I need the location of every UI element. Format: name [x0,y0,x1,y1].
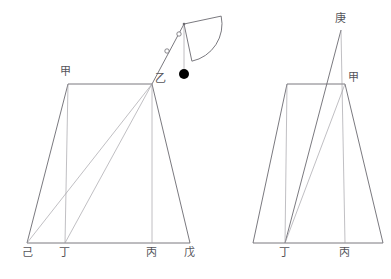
label-left-wu: 戊 [184,247,195,258]
plumb-bob-icon [179,69,189,79]
label-left-yi: 乙 [155,73,166,84]
label-right-ding: 丁 [279,247,290,258]
diagram-canvas [0,0,391,279]
edge-right-jia-wu [345,84,383,243]
edge-vertical-topleft-ding [285,84,287,243]
edge-diagonal-yi-ji [27,84,152,243]
edge-left-topleft-ji [253,84,287,243]
quadrant-sector [184,16,222,61]
right-figure [253,30,383,243]
edge-apex-geng-ding [285,30,341,243]
label-right-geng: 庚 [335,13,346,24]
pivot-point-icon [183,23,186,26]
label-left-ji: 己 [22,247,33,258]
sight-vane-1-icon [165,49,169,53]
left-figure [27,84,190,243]
label-right-jia: 甲 [348,72,359,83]
edge-diagonal-jia-ding [285,84,345,243]
label-left-jia: 甲 [60,66,71,77]
label-left-ding: 丁 [59,247,70,258]
edge-diagonal-yi-ding [65,84,152,243]
surveying-diagram-figure: 甲 乙 己 丁 丙 戊 庚 甲 丁 丙 [0,0,391,279]
edge-left-jia-ji [27,84,68,243]
edge-apex-geng-bing [341,30,345,243]
label-left-bing: 丙 [146,247,157,258]
label-right-bing: 丙 [339,247,350,258]
edge-vertical-jia-ding [65,84,68,243]
edge-right-yi-wu [152,84,190,243]
sight-vane-2-icon [177,32,181,36]
